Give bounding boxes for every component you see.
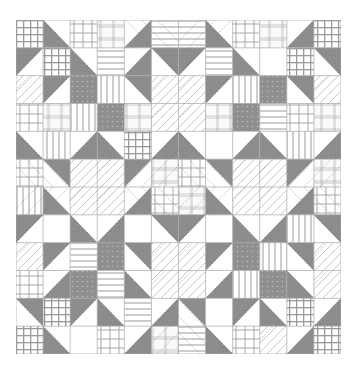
quilt-square (43, 76, 70, 104)
quilt-square (43, 159, 70, 187)
quilt-square (260, 20, 287, 48)
quilt-square (287, 298, 314, 326)
quilt-square (43, 215, 70, 243)
quilt-square (233, 159, 260, 187)
quilt-square (16, 131, 43, 159)
quilt-square (16, 215, 43, 243)
quilt-square (287, 20, 314, 48)
quilt-square (287, 271, 314, 299)
quilt-square (70, 104, 97, 132)
quilt-square (151, 243, 178, 271)
quilt-square (260, 298, 287, 326)
quilt-square (287, 243, 314, 271)
quilt-square (179, 271, 206, 299)
quilt-square (206, 20, 233, 48)
quilt-square (260, 76, 287, 104)
quilt-square (16, 159, 43, 187)
quilt-square (206, 326, 233, 354)
quilt-square (314, 215, 341, 243)
quilt-square (179, 48, 206, 76)
quilt-square (97, 215, 124, 243)
quilt-square (287, 159, 314, 187)
quilt-square (124, 243, 151, 271)
quilt-square (260, 187, 287, 215)
quilt-square (151, 326, 178, 354)
quilt-square (70, 271, 97, 299)
quilt-square (70, 76, 97, 104)
quilt-square (287, 215, 314, 243)
quilt-square (151, 76, 178, 104)
quilt-square (314, 159, 341, 187)
quilt-square (70, 326, 97, 354)
quilt-square (151, 104, 178, 132)
quilt-square (233, 326, 260, 354)
quilt-square (97, 159, 124, 187)
quilt-square (314, 131, 341, 159)
quilt-square (43, 326, 70, 354)
quilt-square (206, 48, 233, 76)
quilt-svg (16, 20, 341, 354)
quilt-square (314, 243, 341, 271)
quilt-square (16, 20, 43, 48)
quilt-square (287, 104, 314, 132)
quilt-square (179, 243, 206, 271)
quilt-square (97, 131, 124, 159)
quilt-square (206, 159, 233, 187)
quilt-square (43, 48, 70, 76)
quilt-square (43, 104, 70, 132)
quilt-square (70, 187, 97, 215)
quilt-square (16, 76, 43, 104)
quilt-square (314, 104, 341, 132)
quilt-square (260, 159, 287, 187)
quilt-square (314, 187, 341, 215)
quilt-square (97, 298, 124, 326)
quilt-square (97, 48, 124, 76)
quilt-square (233, 131, 260, 159)
quilt-square (314, 20, 341, 48)
quilt-square (70, 243, 97, 271)
quilt-square (97, 20, 124, 48)
quilt-pattern (16, 20, 341, 354)
quilt-square (151, 215, 178, 243)
quilt-square (43, 131, 70, 159)
quilt-square (43, 298, 70, 326)
quilt-square (124, 131, 151, 159)
quilt-square (179, 104, 206, 132)
quilt-square (260, 131, 287, 159)
quilt-square (314, 271, 341, 299)
quilt-square (287, 76, 314, 104)
quilt-square (233, 20, 260, 48)
quilt-square (179, 326, 206, 354)
quilt-square (314, 76, 341, 104)
quilt-square (287, 326, 314, 354)
quilt-square (97, 76, 124, 104)
quilt-square (43, 20, 70, 48)
quilt-square (206, 76, 233, 104)
quilt-square (287, 187, 314, 215)
quilt-square (124, 48, 151, 76)
quilt-square (124, 187, 151, 215)
quilt-square (97, 187, 124, 215)
quilt-square (151, 20, 178, 48)
quilt-square (97, 326, 124, 354)
quilt-square (16, 48, 43, 76)
quilt-square (43, 187, 70, 215)
quilt-square (179, 159, 206, 187)
quilt-square (70, 131, 97, 159)
quilt-square (43, 243, 70, 271)
quilt-square (124, 215, 151, 243)
quilt-square (70, 159, 97, 187)
quilt-square (314, 298, 341, 326)
quilt-square (151, 48, 178, 76)
quilt-square (233, 187, 260, 215)
quilt-square (287, 48, 314, 76)
quilt-square (16, 271, 43, 299)
quilt-square (179, 131, 206, 159)
quilt-square (287, 131, 314, 159)
quilt-square (151, 159, 178, 187)
quilt-square (206, 215, 233, 243)
quilt-square (233, 104, 260, 132)
quilt-square (70, 215, 97, 243)
quilt-square (233, 76, 260, 104)
quilt-square (124, 76, 151, 104)
